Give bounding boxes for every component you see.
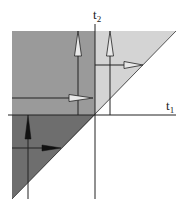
t1-axis-label: t1 bbox=[166, 98, 174, 115]
region-diagram: t1 t2 bbox=[0, 0, 189, 211]
upper-left-region bbox=[12, 31, 95, 115]
t2-axis-label: t2 bbox=[93, 7, 101, 24]
